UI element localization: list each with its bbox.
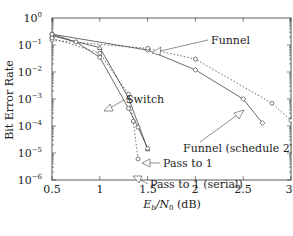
- annotation-funnel: Funnel: [211, 34, 250, 47]
- x-tick-0: 0.5: [43, 183, 61, 196]
- ber-chart: 100 10−1 10−2 10−3 10−4 10−5 10−6 0.5 1 …: [0, 0, 292, 236]
- axis-ticks: [52, 18, 291, 180]
- y-tick-4: 10−4: [18, 119, 43, 133]
- data-point-marker: [98, 51, 102, 55]
- data-point-marker: [289, 118, 292, 122]
- annotation-funnel-schedule2: Funnel (schedule 2): [183, 142, 292, 155]
- data-point-marker: [146, 146, 150, 150]
- y-tick-6: 10−6: [18, 173, 43, 187]
- x-axis-label: Eb/N0 (dB): [142, 198, 201, 212]
- data-point-marker: [193, 57, 197, 61]
- y-tick-1: 10−1: [18, 38, 42, 52]
- annotations: Funnel Switch Funnel (schedule 2) Pass t…: [126, 34, 292, 191]
- y-tick-5: 10−5: [18, 146, 42, 160]
- y-tick-labels: 100 10−1 10−2 10−3 10−4 10−5 10−6: [18, 11, 43, 187]
- data-point-marker: [50, 32, 54, 36]
- y-tick-2: 10−2: [18, 65, 42, 79]
- plot-frame: [52, 18, 291, 180]
- data-point-marker: [136, 125, 140, 129]
- data-point-marker: [270, 101, 274, 105]
- annotation-pass-to-1-serial: Pass to 1 (serial): [150, 178, 243, 191]
- annotation-pass-to-1: Pass to 1: [163, 157, 213, 170]
- data-point-marker: [136, 157, 140, 161]
- y-axis-label: Bit Error Rate: [3, 60, 16, 139]
- x-tick-5: 3: [286, 183, 293, 196]
- x-tick-1: 1: [97, 183, 104, 196]
- data-point-marker: [193, 67, 198, 72]
- data-point-marker: [98, 55, 102, 59]
- data-point-marker: [74, 40, 78, 44]
- annotation-switch: Switch: [126, 93, 164, 106]
- y-tick-3: 10−3: [18, 92, 42, 106]
- data-point-marker: [131, 119, 135, 123]
- series-line-funnel-schedule-2-: [52, 40, 291, 120]
- series-line-funnel: [52, 34, 262, 123]
- data-point-marker: [126, 106, 130, 110]
- y-tick-0: 100: [24, 11, 42, 25]
- data-point-marker: [146, 46, 150, 50]
- data-point-marker: [50, 36, 54, 40]
